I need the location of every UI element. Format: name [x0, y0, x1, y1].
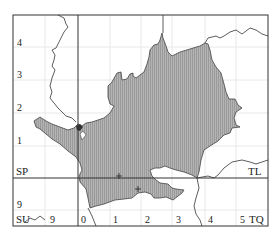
grid-square-sp: SP	[16, 166, 28, 177]
shaded-region	[34, 33, 242, 208]
grid-square-tl: TL	[248, 166, 261, 177]
grid-square-su: SU	[16, 214, 30, 225]
y-tick-4: 4	[17, 38, 22, 48]
grid-square-tq: TQ	[249, 214, 264, 225]
x-tick-0: 0	[81, 215, 86, 225]
x-tick-3: 3	[176, 215, 181, 225]
map-canvas	[0, 0, 276, 240]
x-tick-5: 5	[240, 215, 245, 225]
x-tick-1: 1	[113, 215, 118, 225]
x-tick-9: 9	[50, 215, 55, 225]
y-tick-2: 2	[17, 103, 22, 113]
y-tick-9: 9	[17, 200, 22, 210]
y-tick-1: 1	[17, 136, 22, 146]
x-tick-2: 2	[145, 215, 150, 225]
x-tick-4: 4	[208, 215, 213, 225]
y-tick-3: 3	[17, 70, 22, 80]
